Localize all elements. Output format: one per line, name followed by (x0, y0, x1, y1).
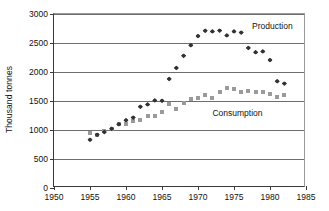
data-point-consumption (182, 101, 186, 105)
y-tick-label: 3000 (29, 9, 48, 19)
data-point-production (167, 76, 172, 81)
data-point-consumption (174, 107, 178, 111)
data-point-production (239, 30, 244, 35)
data-point-consumption (268, 92, 272, 96)
data-point-consumption (261, 90, 265, 94)
data-point-consumption (218, 90, 222, 94)
y-tick-mark (50, 159, 54, 160)
data-point-production (196, 34, 201, 39)
data-point-production (88, 137, 93, 142)
x-tick-mark (270, 186, 271, 190)
y-tick-label: 2000 (29, 67, 48, 77)
data-point-production (174, 65, 179, 70)
x-tick-label: 1955 (81, 192, 100, 202)
plot-area: 050010001500200025003000 195019551960196… (53, 13, 305, 187)
gridline (54, 72, 304, 73)
data-point-consumption (88, 131, 92, 135)
x-tick-mark (234, 186, 235, 190)
x-tick-label: 1980 (261, 192, 280, 202)
data-point-production (260, 49, 265, 54)
data-point-consumption (160, 110, 164, 114)
x-tick-mark (306, 186, 307, 190)
x-tick-label: 1985 (297, 192, 316, 202)
y-axis-title: Thousand tonnes (2, 0, 16, 205)
data-point-consumption (254, 90, 258, 94)
x-tick-mark (162, 186, 163, 190)
data-point-production (217, 28, 222, 33)
x-tick-label: 1960 (117, 192, 136, 202)
y-tick-mark (50, 130, 54, 131)
gridline (54, 14, 304, 15)
y-tick-label: 500 (34, 154, 48, 164)
x-tick-label: 1965 (153, 192, 172, 202)
data-point-production (282, 81, 287, 86)
y-tick-label: 1000 (29, 125, 48, 135)
x-tick-mark (54, 186, 55, 190)
data-point-consumption (246, 89, 250, 93)
y-tick-mark (50, 14, 54, 15)
data-point-consumption (210, 96, 214, 100)
data-point-production (224, 33, 229, 38)
data-point-production (210, 29, 215, 34)
data-point-consumption (282, 93, 286, 97)
data-point-consumption (146, 114, 150, 118)
data-point-consumption (275, 95, 279, 99)
y-tick-mark (50, 101, 54, 102)
data-point-production (275, 79, 280, 84)
data-point-consumption (196, 96, 200, 100)
data-point-production (232, 29, 237, 34)
data-point-production (138, 104, 143, 109)
data-point-production (253, 50, 258, 55)
data-point-consumption (167, 102, 171, 106)
data-point-production (268, 58, 273, 63)
scatter-chart: Thousand tonnes 050010001500200025003000… (0, 0, 329, 211)
y-tick-label: 1500 (29, 96, 48, 106)
data-point-consumption (138, 118, 142, 122)
data-point-production (160, 98, 165, 103)
x-tick-label: 1950 (45, 192, 64, 202)
x-tick-mark (126, 186, 127, 190)
data-point-consumption (189, 97, 193, 101)
series-label-production: Production (252, 21, 293, 31)
data-point-production (246, 45, 251, 50)
x-tick-mark (90, 186, 91, 190)
data-point-consumption (153, 114, 157, 118)
data-point-consumption (203, 93, 207, 97)
data-point-consumption (232, 87, 236, 91)
series-label-consumption: Consumption (212, 108, 262, 118)
y-tick-mark (50, 43, 54, 44)
gridline (54, 101, 304, 102)
data-point-consumption (225, 86, 229, 90)
data-point-production (145, 102, 150, 107)
x-tick-label: 1970 (189, 192, 208, 202)
y-tick-label: 2500 (29, 38, 48, 48)
data-point-production (203, 28, 208, 33)
data-point-production (152, 98, 157, 103)
x-tick-mark (198, 186, 199, 190)
data-point-consumption (239, 90, 243, 94)
y-tick-mark (50, 72, 54, 73)
gridline (54, 159, 304, 160)
data-point-production (181, 53, 186, 58)
gridline (54, 43, 304, 44)
x-tick-label: 1975 (225, 192, 244, 202)
